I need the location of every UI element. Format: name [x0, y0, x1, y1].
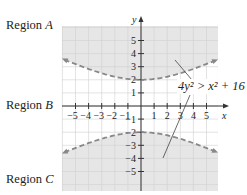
x-axis-label: x	[221, 110, 227, 121]
y-tick-label: −3	[125, 140, 136, 151]
x-tick-label: 1	[152, 110, 157, 121]
y-axis-arrow	[139, 16, 144, 22]
x-tick-label: −3	[93, 110, 104, 121]
x-tick-label: −4	[80, 110, 91, 121]
x-tick-label: 4	[191, 110, 196, 121]
x-tick-label: 5	[204, 110, 209, 121]
y-tick-label: 4	[131, 48, 136, 59]
y-tick-label: −5	[125, 166, 136, 177]
y-tick-label: −4	[125, 153, 136, 164]
y-tick-label: 1	[131, 87, 136, 98]
x-tick-label: −5	[67, 110, 78, 121]
x-axis-arrow	[223, 104, 229, 109]
y-tick-label: 3	[131, 61, 136, 72]
x-tick-label: 3	[178, 110, 183, 121]
y-tick-label: 5	[131, 35, 136, 46]
region-c-label: Region C	[6, 172, 54, 187]
y-axis-label: y	[131, 14, 137, 25]
y-tick-label: −1	[125, 114, 136, 125]
region-a-label: Region A	[6, 18, 53, 33]
region-b-label: Region B	[6, 98, 53, 113]
inequality-label: 4y² > x² + 16	[177, 79, 246, 94]
x-tick-label: −2	[106, 110, 117, 121]
x-tick-label: 2	[165, 110, 170, 121]
